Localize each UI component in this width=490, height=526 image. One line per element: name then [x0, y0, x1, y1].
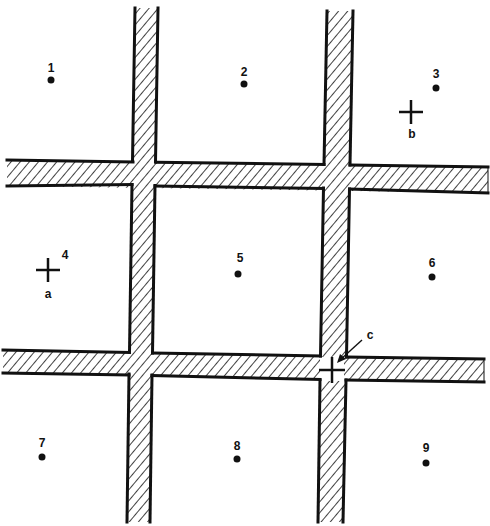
point-1-label: 1 — [48, 61, 55, 75]
point-8-dot — [234, 456, 241, 463]
point-4-label: 4 — [62, 248, 69, 262]
point-3-label: 3 — [433, 67, 440, 81]
point-8-label: 8 — [234, 439, 241, 453]
point-7-label: 7 — [39, 436, 46, 450]
marker-b-label: b — [408, 127, 415, 141]
point-6-dot — [429, 274, 436, 281]
point-9-dot — [423, 460, 430, 467]
point-2-label: 2 — [241, 65, 248, 79]
point-7-dot — [39, 454, 46, 461]
point-3-dot — [433, 85, 440, 92]
point-5-label: 5 — [237, 251, 244, 265]
point-1-dot — [48, 77, 55, 84]
marker-a-label: a — [45, 287, 52, 301]
point-6-label: 6 — [429, 256, 436, 270]
point-5-dot — [235, 271, 242, 278]
point-9-label: 9 — [423, 441, 430, 455]
point-2-dot — [241, 81, 248, 88]
marker-c-label: c — [367, 328, 374, 342]
street-grid-diagram: 1 2 3 4 5 6 7 8 9 a b c — [0, 0, 490, 526]
